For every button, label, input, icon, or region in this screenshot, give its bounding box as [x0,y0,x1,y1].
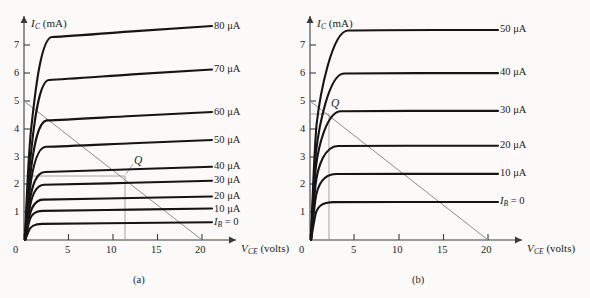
curve-70ua [25,70,212,241]
curve-50ua [25,140,212,240]
curve-10ua [311,174,498,240]
y-tick-label-a-5: 5 [14,96,19,107]
curve-label-b-40ua: 40 μA [500,67,526,78]
y-axis-arrow-a [21,16,28,23]
chart-b-curves [311,30,498,240]
x-tick-label-b-15: 15 [437,245,448,256]
chart-a-curves [25,26,212,240]
x-tick-label-a-10: 10 [106,245,117,256]
y-tick-label-b-2: 2 [300,179,305,190]
x-tick-label-a-5: 5 [65,245,70,256]
x-tick-label-a-15: 15 [151,245,162,256]
curve-ib-zero [311,202,498,240]
curve-label-a-ib-zero: IB = 0 [214,217,239,228]
curve-ib-zero [25,222,212,240]
curve-label-a-80ua: 80 μA [214,21,240,32]
q-point-label-b: Q [331,98,339,110]
curve-label-a-60ua: 60 μA [214,107,240,118]
y-tick-label-a-7: 7 [14,40,19,51]
x-axis-label-b: VCE (volts) [527,243,575,255]
transistor-characteristic-curves-figure: IC (mA) VCE (volts) 7 6 5 4 3 2 1 0 5 10… [0,0,590,298]
x-axis-arrow-a [229,237,236,244]
y-axis-label-b: IC (mA) [317,18,353,30]
chart-b-x-ticks [310,234,488,240]
q-point-label-a: Q [134,155,142,167]
curve-label-a-70ua: 70 μA [214,64,240,75]
chart-panel-a: IC (mA) VCE (volts) 7 6 5 4 3 2 1 0 5 10… [0,0,295,298]
panel-caption-b: (b) [412,275,424,286]
x-tick-label-b-0: 0 [299,245,304,256]
y-tick-label-a-2: 2 [14,179,19,190]
curve-50ua [311,30,498,240]
x-axis-arrow-b [515,237,522,244]
x-tick-label-b-10: 10 [392,245,403,256]
curve-label-a-50ua: 50 μA [214,135,240,146]
panel-caption-a: (a) [133,275,145,286]
y-tick-label-a-4: 4 [14,124,19,135]
curve-label-a-20ua: 20 μA [214,191,240,202]
curve-40ua [25,167,212,240]
chart-panel-b: IC (mA) VCE (volts) 7 6 5 4 3 2 1 0 5 10… [295,0,590,298]
y-axis-label-a: IC (mA) [31,18,67,30]
chart-b-axes [307,16,523,244]
chart-a-x-ticks [24,234,202,240]
y-tick-label-b-7: 7 [300,40,305,51]
curve-label-b-30ua: 30 μA [500,105,526,116]
y-tick-label-b-1: 1 [300,207,305,218]
y-tick-label-a-6: 6 [14,68,19,79]
curve-30ua [311,111,498,240]
y-tick-label-a-1: 1 [14,207,19,218]
x-tick-label-a-20: 20 [195,245,206,256]
load-line-b [310,101,488,240]
y-tick-label-a-3: 3 [14,152,19,163]
x-axis-label-a: VCE (volts) [241,243,289,255]
curve-label-a-30ua: 30 μA [214,175,240,186]
y-tick-label-b-4: 4 [300,124,305,135]
curve-label-b-50ua: 50 μA [500,24,526,35]
x-tick-label-b-5: 5 [351,245,356,256]
curve-label-a-40ua: 40 μA [214,161,240,172]
y-tick-label-b-6: 6 [300,68,305,79]
y-axis-arrow-b [307,16,314,23]
curve-label-a-10ua: 10 μA [214,204,240,215]
curve-20ua [25,197,212,241]
curve-label-b-ib-zero: IB = 0 [500,196,525,207]
x-tick-label-a-0: 0 [13,245,18,256]
y-tick-label-b-3: 3 [300,152,305,163]
x-tick-label-b-20: 20 [481,245,492,256]
curve-label-b-10ua: 10 μA [500,168,526,179]
curve-label-b-20ua: 20 μA [500,140,526,151]
y-tick-label-b-5: 5 [300,96,305,107]
